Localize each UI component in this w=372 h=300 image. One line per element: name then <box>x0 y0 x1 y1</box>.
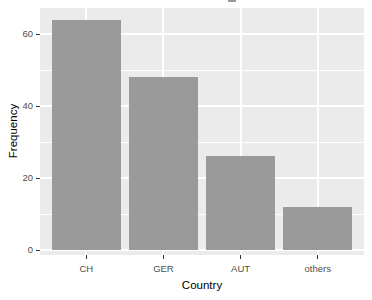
y-tick-label: 20 <box>0 172 33 184</box>
x-tick-mark <box>163 255 164 259</box>
y-tick-label: 0 <box>0 244 33 256</box>
bar-others <box>283 207 352 250</box>
bar-CH <box>52 20 121 250</box>
y-tick-mark <box>36 34 40 35</box>
y-tick-label: 60 <box>0 28 33 40</box>
x-tick-label: others <box>278 263 358 275</box>
bar-chart: Country Frequency 0204060CHGERAUTothers <box>0 0 372 300</box>
x-tick-label: AUT <box>201 263 281 275</box>
bar-AUT <box>206 156 275 250</box>
x-axis-title: Country <box>40 279 364 291</box>
plot-panel <box>40 8 364 255</box>
bar-GER <box>129 77 198 250</box>
y-tick-mark <box>36 250 40 251</box>
y-tick-label: 40 <box>0 100 33 112</box>
x-tick-label: GER <box>123 263 203 275</box>
x-tick-mark <box>86 255 87 259</box>
cropped-text-artifact <box>228 0 236 2</box>
x-tick-label: CH <box>46 263 126 275</box>
x-tick-mark <box>240 255 241 259</box>
y-tick-mark <box>36 178 40 179</box>
y-tick-mark <box>36 106 40 107</box>
x-tick-mark <box>317 255 318 259</box>
